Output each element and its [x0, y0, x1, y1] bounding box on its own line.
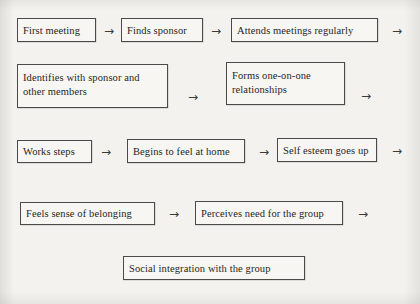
flow-node-label: Self esteem goes up [283, 144, 369, 158]
flow-node-label: Finds sponsor [127, 24, 187, 38]
flow-node-finds-sponsor[interactable]: Finds sponsor [121, 18, 203, 42]
flowchart-canvas: First meeting → Finds sponsor → Attends … [0, 0, 420, 304]
flow-node-social-integration-with-the-group[interactable]: Social integration with the group [123, 256, 305, 280]
flow-arrow-icon: → [188, 91, 198, 103]
flow-node-label: Works steps [23, 145, 75, 159]
flow-node-first-meeting[interactable]: First meeting [17, 18, 96, 42]
flow-node-label: Begins to feel at home [133, 145, 230, 159]
flow-arrow-icon: → [392, 145, 402, 157]
flow-arrow-icon: → [259, 146, 269, 158]
flow-node-label: Perceives need for the group [201, 207, 324, 221]
flow-arrow-icon: → [101, 146, 111, 158]
flow-node-label: Forms one-on-one relationships [232, 70, 311, 95]
flow-arrow-icon: → [104, 25, 114, 37]
flow-node-perceives-need-for-the-group[interactable]: Perceives need for the group [195, 201, 343, 225]
flow-node-label: First meeting [23, 24, 80, 38]
flow-arrow-icon: → [169, 208, 179, 220]
flow-node-attends-meetings-regularly[interactable]: Attends meetings regularly [231, 18, 378, 42]
flow-node-self-esteem-goes-up[interactable]: Self esteem goes up [277, 138, 377, 162]
flow-arrow-icon: → [392, 25, 402, 37]
flow-node-label: Identifies with sponsor and other member… [23, 72, 140, 97]
flow-arrow-icon: → [361, 90, 371, 102]
flow-node-identifies-with-sponsor[interactable]: Identifies with sponsor and other member… [17, 64, 168, 108]
flow-node-works-steps[interactable]: Works steps [17, 140, 92, 163]
flow-node-label: Attends meetings regularly [237, 24, 353, 38]
flow-node-feels-sense-of-belonging[interactable]: Feels sense of belonging [20, 202, 155, 225]
flow-node-label: Social integration with the group [129, 262, 271, 276]
flow-node-begins-to-feel-at-home[interactable]: Begins to feel at home [127, 139, 245, 163]
flow-arrow-icon: → [211, 25, 221, 37]
flow-node-forms-one-on-one-relationships[interactable]: Forms one-on-one relationships [226, 62, 345, 105]
flow-arrow-icon: → [358, 208, 368, 220]
flow-node-label: Feels sense of belonging [26, 207, 132, 221]
